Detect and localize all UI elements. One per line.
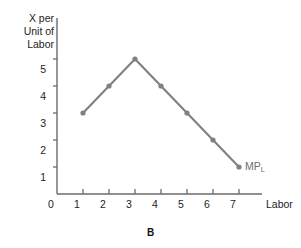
series-label-text: MP	[245, 160, 261, 172]
series-markers-mpl	[80, 56, 241, 169]
data-point	[210, 137, 215, 142]
figure-panel: X per Unit of Labor Labor 5 4 3 2 1 0 1 …	[0, 0, 301, 248]
data-point	[132, 56, 137, 61]
data-point	[158, 83, 163, 88]
series-label-mpl: MPL	[245, 160, 265, 172]
data-point	[106, 83, 111, 88]
data-point	[184, 110, 189, 115]
data-point	[80, 110, 85, 115]
series-label-subscript: L	[261, 165, 265, 174]
x-axis-ticks	[83, 189, 239, 194]
figure-caption: B	[0, 227, 301, 238]
axis-lines	[57, 18, 262, 194]
plot-area	[0, 0, 301, 248]
data-point	[236, 164, 241, 169]
series-line-mpl	[83, 59, 239, 167]
